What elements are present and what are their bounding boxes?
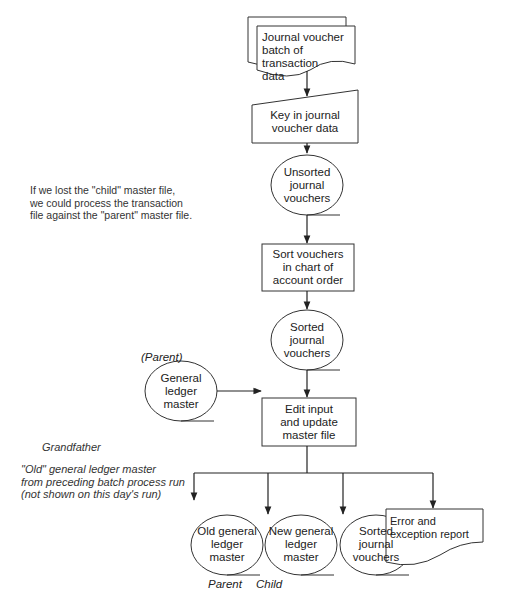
label-line: journal [271,334,343,347]
note-line: we could process the transaction [30,197,192,210]
label-line: Error and [390,515,482,528]
edit-update-label: Edit input and update master file [262,403,356,442]
label-line: master [189,551,265,564]
label-line: General [145,372,217,385]
label-line: exception report [390,528,482,541]
label-line: Sort vouchers [262,248,354,261]
label-line: ledger [145,385,217,398]
old-gl-label: Old general ledger master [189,525,265,564]
label-line: journal [271,179,343,192]
old-gl-parent-tag: Parent [208,578,242,591]
error-report-label: Error and exception report [390,515,482,541]
note-line: file against the "parent" master file. [30,209,192,222]
old-master-note: "Old" general ledger master from precedi… [21,463,185,501]
label-line: Key in journal [252,109,358,122]
new-gl-label: New general ledger master [263,525,339,564]
label-line: Old general [189,525,265,538]
input-document-label: Journal voucher batch of transaction dat… [262,31,357,83]
unsorted-tape-label: Unsorted journal vouchers [271,166,343,205]
label-line: account order [262,274,354,287]
label-line: data [262,70,357,83]
note-line: "Old" general ledger master [21,463,185,476]
label-line: vouchers [340,551,412,564]
grandfather-label: Grandfather [42,441,101,454]
label-line: New general [263,525,339,538]
label-line: Unsorted [271,166,343,179]
sorted-tape-label: Sorted journal vouchers [271,321,343,360]
label-line: in chart of [262,261,354,274]
label-line: vouchers [271,347,343,360]
key-in-label: Key in journal voucher data [252,109,358,135]
label-line: vouchers [271,192,343,205]
new-gl-child-tag: Child [256,578,282,591]
label-line: ledger [263,538,339,551]
sort-process-label: Sort vouchers in chart of account order [262,248,354,287]
label-line: ledger [189,538,265,551]
gl-parent-tag: (Parent) [141,351,183,364]
label-line: master [263,551,339,564]
label-line: Edit input [262,403,356,416]
flowchart-canvas [0,0,505,591]
label-line: voucher data [252,122,358,135]
label-line: Journal voucher [262,31,357,44]
label-line: batch of transaction [262,44,357,70]
note-line: (not shown on this day's run) [21,488,185,501]
note-line: If we lost the "child" master file, [30,184,192,197]
label-line: master file [262,429,356,442]
label-line: Sorted [271,321,343,334]
gl-master-label: General ledger master [145,372,217,411]
note-line: from preceding batch process run [21,476,185,489]
label-line: master [145,398,217,411]
label-line: and update [262,416,356,429]
child-note: If we lost the "child" master file, we c… [30,184,192,222]
